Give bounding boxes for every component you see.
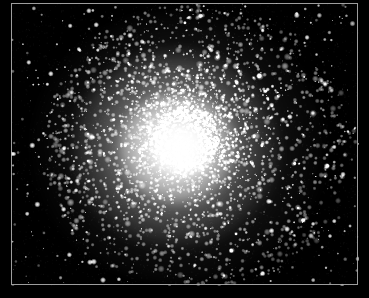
resolved-starfield bbox=[11, 3, 359, 286]
photographic-plate bbox=[11, 3, 359, 286]
image-viewport bbox=[0, 0, 369, 298]
